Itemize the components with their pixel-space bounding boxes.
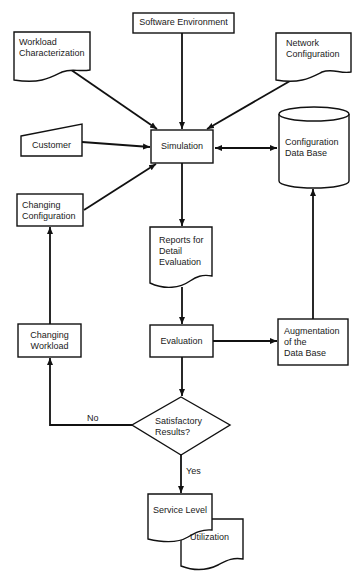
changing-workload-label: Changing Workload [18,330,81,352]
satisfactory-results-label: Satisfactory Results? [155,416,215,438]
changing-configuration-label: Changing Configuration [22,200,84,222]
edge-label-no: No [87,413,99,424]
edge-customer-to-simulation [82,142,150,147]
workload-characterization-label: Workload Characterization [19,37,91,59]
network-configuration-label: Network Configuration [286,38,352,60]
augmentation-label: Augmentation of the Data Base [284,326,350,359]
edge-changing-config-to-simulation [84,164,156,210]
software-environment-label: Software Environment [133,17,234,28]
configuration-database-label: Configuration Data Base [285,137,349,159]
evaluation-label: Evaluation [150,336,213,347]
edge-network-to-simulation [207,81,290,129]
utilization-label: Utilization [190,532,244,543]
service-level-label: Service Level [153,505,213,516]
flowchart-canvas [0,0,363,580]
edge-workload-to-simulation [64,65,157,129]
customer-label: Customer [32,140,82,151]
reports-label: Reports for Detail Evaluation [159,235,213,268]
edge-label-yes: Yes [186,466,201,477]
simulation-label: Simulation [151,141,213,152]
